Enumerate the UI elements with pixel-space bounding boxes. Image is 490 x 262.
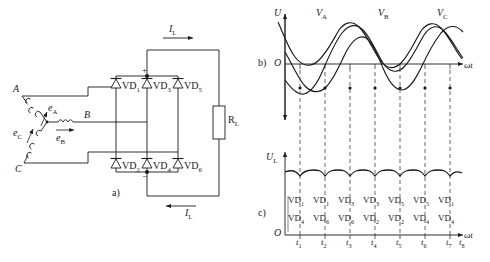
diode-label-vd4: VD4 (153, 161, 171, 174)
negative-node-label: − (142, 172, 147, 181)
conduction-lower-2: VD6 (338, 214, 354, 225)
diode-label-vd3: VD3 (153, 81, 171, 94)
rl-sub: L (235, 120, 239, 127)
vd6-base: VD (184, 160, 198, 171)
vd5-sub: 5 (198, 86, 201, 93)
cu1-sub: 1 (326, 201, 329, 207)
positive-node-label: + (142, 66, 147, 75)
conduction-upper-1: VD1 (313, 196, 329, 207)
cl5-base: VD (413, 213, 426, 223)
cl2-base: VD (338, 213, 351, 223)
cl4-base: VD (388, 213, 401, 223)
phase-a-terminal: A (13, 84, 19, 94)
circuit-panel (22, 38, 225, 206)
current-label-bottom: IL (185, 208, 193, 221)
conduction-upper-4: VD5 (388, 196, 404, 207)
cl2-sub: 6 (351, 219, 354, 225)
tick-label-t6: t6 (421, 238, 427, 249)
cl6-base: VD (438, 213, 451, 223)
vd1-base: VD (122, 80, 136, 91)
tick-label-t2: t2 (321, 238, 327, 249)
vd3-sub: 3 (167, 86, 170, 93)
axis-label-omega-t-c: ωt (464, 231, 473, 240)
diode-label-vd2: VD2 (122, 161, 140, 174)
conduction-lower-4: VD2 (388, 214, 404, 225)
series-label-vb: VB (378, 8, 389, 21)
t3-sub: 3 (349, 243, 352, 249)
conduction-upper-6: VD1 (438, 196, 454, 207)
cl3-sub: 2 (376, 219, 379, 225)
conduction-upper-0: VD1 (288, 196, 304, 207)
figure-root: a) b) c) A B C eA eB eC VD1 VD3 VD5 VD2 … (0, 0, 490, 262)
diode-vd4 (142, 159, 153, 173)
t1-sub: 1 (299, 243, 302, 249)
cu3-base: VD (363, 195, 376, 205)
load-resistor-label: RL (228, 115, 239, 128)
current-label-top: IL (169, 24, 177, 37)
cu0-base: VD (288, 195, 301, 205)
il-bot-sub: L (188, 213, 192, 220)
emf-c-sub: C (17, 133, 22, 140)
wave-ul (285, 170, 462, 176)
cl3-base: VD (363, 213, 376, 223)
origin-label-c: O (274, 228, 281, 238)
cu6-base: VD (438, 195, 451, 205)
phase-b-terminal: B (84, 110, 90, 120)
vd2-base: VD (122, 160, 136, 171)
ul-sub: L (273, 157, 277, 164)
cu2-sub: 3 (351, 201, 354, 207)
cu4-sub: 5 (401, 201, 404, 207)
emf-a-label: eA (48, 103, 57, 116)
conduction-lower-1: VD6 (313, 214, 329, 225)
cl1-base: VD (313, 213, 326, 223)
vd5-base: VD (184, 80, 198, 91)
tick-label-t8: t8 (459, 238, 465, 249)
diode-vd1 (111, 76, 122, 88)
vd4-sub: 4 (167, 166, 170, 173)
panel-label-a: a) (112, 188, 120, 198)
conduction-lower-5: VD4 (413, 214, 429, 225)
emf-c-label: eC (13, 128, 22, 141)
panel-label-c: c) (258, 208, 266, 218)
cl6-sub: 4 (451, 219, 454, 225)
cu2-base: VD (338, 195, 351, 205)
conduction-upper-5: VD5 (413, 196, 429, 207)
conduction-upper-2: VD3 (338, 196, 354, 207)
cu1-base: VD (313, 195, 326, 205)
axis-label-ul: UL (266, 152, 277, 165)
series-label-va: VA (316, 8, 327, 21)
cu5-base: VD (413, 195, 426, 205)
diode-label-vd6: VD6 (184, 161, 202, 174)
load-loop (147, 50, 225, 196)
cu6-sub: 1 (451, 201, 454, 207)
t6-sub: 6 (424, 243, 427, 249)
diode-vd6 (173, 159, 184, 173)
diode-vd2 (111, 159, 122, 173)
tick-label-t5: t5 (396, 238, 402, 249)
axis-label-omega-t-b: ωt (464, 61, 473, 70)
origin-label-b: O (274, 58, 281, 68)
vd2-sub: 2 (136, 166, 139, 173)
diode-label-vd5: VD5 (184, 81, 202, 94)
diode-label-vd1: VD1 (122, 81, 140, 94)
axis-label-u: U (274, 8, 281, 18)
cu0-sub: 1 (301, 201, 304, 207)
cl0-base: VD (288, 213, 301, 223)
emf-b-label: eB (56, 133, 65, 146)
va-sub: A (322, 13, 327, 20)
t2-sub: 2 (324, 243, 327, 249)
vd4-base: VD (153, 160, 167, 171)
diode-vd3 (142, 76, 153, 88)
emf-b-sub: B (60, 138, 65, 145)
t4-sub: 4 (374, 243, 377, 249)
vd1-sub: 1 (136, 86, 139, 93)
rl-base: R (228, 114, 235, 125)
tick-label-t4: t4 (371, 238, 377, 249)
cu5-sub: 5 (426, 201, 429, 207)
phase-c-terminal: C (15, 164, 22, 174)
t8-sub: 8 (462, 243, 465, 249)
cu3-sub: 3 (376, 201, 379, 207)
conduction-lower-3: VD2 (363, 214, 379, 225)
cl1-sub: 6 (326, 219, 329, 225)
vc-sub: C (443, 13, 448, 20)
